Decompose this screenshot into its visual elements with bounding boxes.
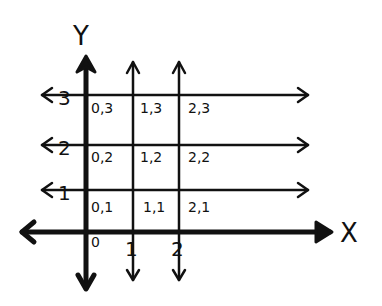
origin-label: 0 <box>91 234 100 250</box>
x-tick-2: 2 <box>171 237 184 261</box>
cell-label: 2,2 <box>188 149 210 165</box>
cell-label: 1,3 <box>140 100 162 116</box>
y-tick-3: 3 <box>58 86 71 110</box>
cell-label: 2,1 <box>188 199 210 215</box>
cell-label: 1,2 <box>140 149 162 165</box>
x-tick-1: 1 <box>125 237 138 261</box>
y-tick-1: 1 <box>58 181 71 205</box>
y-tick-2: 2 <box>58 136 71 160</box>
cell-label: 2,3 <box>188 100 210 116</box>
cell-label: 0,3 <box>91 100 113 116</box>
coordinate-grid-diagram: Y X 0 1 2 1 2 3 0,3 1,3 2,3 0,2 1,2 2,2 … <box>0 0 382 306</box>
y-axis-label: Y <box>72 21 89 51</box>
cell-label: 0,2 <box>91 149 113 165</box>
grid-line-y3 <box>42 88 308 102</box>
cell-label: 0,1 <box>91 199 113 215</box>
grid-line-y2 <box>42 138 308 152</box>
grid-line-y1 <box>42 183 308 197</box>
cell-label: 1,1 <box>143 199 165 215</box>
y-axis <box>77 56 95 289</box>
x-axis-label: X <box>340 218 358 248</box>
